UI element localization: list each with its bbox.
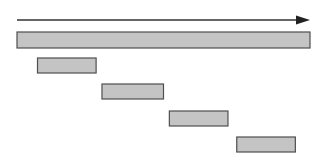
arrow-head-icon bbox=[296, 16, 310, 25]
timeline-arrow bbox=[17, 16, 310, 25]
stage-bars bbox=[38, 58, 296, 152]
stage-bar-4 bbox=[237, 137, 296, 152]
stage-timeline-diagram bbox=[0, 0, 321, 164]
stage-bar-3 bbox=[169, 111, 228, 126]
stage-bar-2 bbox=[102, 84, 164, 99]
stage-bar-1 bbox=[38, 58, 97, 73]
overall-process-bar bbox=[17, 32, 310, 48]
